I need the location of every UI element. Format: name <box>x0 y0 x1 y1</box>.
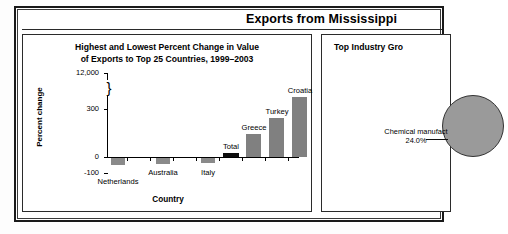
y-tick-0: 0 <box>55 153 99 161</box>
x-tickmark-1 <box>127 157 128 161</box>
bar-chart: Percent change 12,000 300 0 -100 } <box>23 35 313 213</box>
pie-leader-line <box>426 139 448 140</box>
pie-chart-title: Top Industry Gro <box>334 42 508 54</box>
x-tickmark-5 <box>219 157 220 161</box>
bar-label-australia: Australia <box>133 168 193 177</box>
y-axis-title: Percent change <box>35 77 47 157</box>
x-tickmark-8 <box>288 157 289 161</box>
x-tickmark-3 <box>173 157 174 161</box>
bar-italy <box>201 158 215 163</box>
header-divider <box>22 29 442 30</box>
bar-chart-panel: Highest and Lowest Percent Change in Val… <box>22 34 312 212</box>
bar-label-turkey: Turkey <box>250 107 304 116</box>
bar-label-netherlands: Netherlands <box>78 177 158 186</box>
y-tick-minus100: -100 <box>55 169 99 177</box>
bar-total <box>223 153 239 157</box>
x-tickmark-6 <box>242 157 243 161</box>
x-tickmark-4 <box>196 157 197 161</box>
bar-label-greece: Greece <box>226 123 282 132</box>
bar-label-croatia: Croatia <box>273 86 327 95</box>
pie-chart-wedge <box>442 95 504 157</box>
bar-label-italy: Italy <box>186 168 230 177</box>
bar-croatia <box>292 97 307 157</box>
pie-callout: Chemical manufact 24.0% <box>356 127 476 145</box>
pie-chart-panel: Top Industry Gro Chemical manufact 24.0% <box>321 34 451 212</box>
pie-callout-value: 24.0% <box>356 136 476 145</box>
bar-australia <box>156 158 170 164</box>
y-tick-300: 300 <box>55 105 99 113</box>
y-tickmark-minus100 <box>104 173 108 174</box>
x-tickmark-2 <box>150 157 151 161</box>
bar-netherlands <box>111 158 125 165</box>
pie-callout-label: Chemical manufact <box>384 127 447 136</box>
page-title: Exports from Mississippi <box>246 10 436 28</box>
bar-label-total: Total <box>208 142 254 151</box>
axis-break-icon: } <box>103 80 115 96</box>
x-tickmark-7 <box>265 157 266 161</box>
x-axis-title: Country <box>23 195 313 204</box>
y-tick-12000: 12,000 <box>55 69 99 77</box>
